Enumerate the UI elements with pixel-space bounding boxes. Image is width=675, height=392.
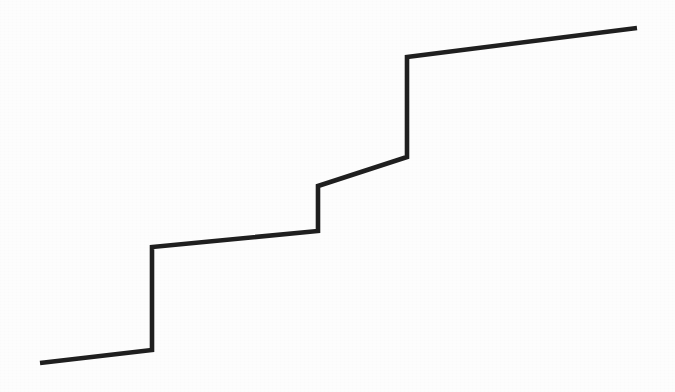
staircase-svg	[0, 0, 675, 392]
staircase-polyline	[40, 28, 637, 363]
figure-canvas	[0, 0, 675, 392]
